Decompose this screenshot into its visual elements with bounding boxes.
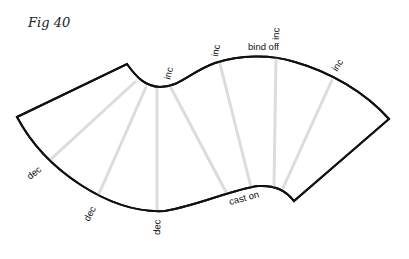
label-bind-off: bind off	[248, 41, 279, 52]
label-dec: dec	[151, 219, 163, 235]
label-inc: inc	[329, 57, 345, 73]
label-dec: dec	[24, 163, 43, 181]
label-inc: inc	[270, 27, 281, 40]
knitting-schematic-diagram: Fig 40 inc inc inc bind off inc dec dec …	[0, 0, 409, 259]
label-inc: inc	[209, 43, 222, 57]
guide-line	[274, 57, 276, 186]
label-dec: dec	[81, 204, 98, 223]
label-inc: inc	[161, 66, 175, 81]
figure-title: Fig 40	[27, 15, 70, 30]
